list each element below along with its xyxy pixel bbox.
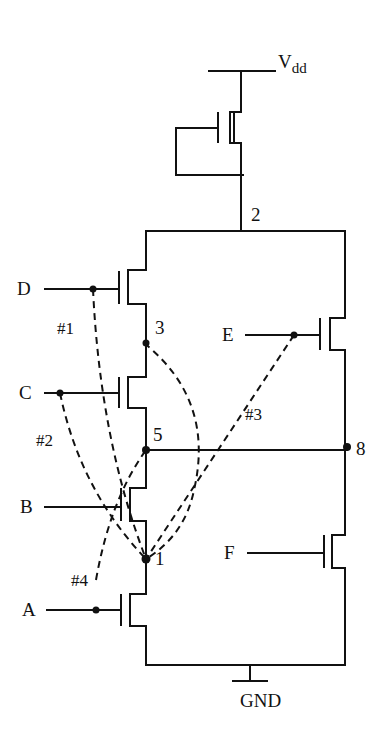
node-label-1: 1 [155, 548, 165, 569]
fault-label-4: #4 [71, 571, 89, 590]
dot-D [90, 286, 97, 293]
fault-label-2: #2 [36, 431, 53, 450]
fault-label-1: #1 [57, 319, 74, 338]
right-branch [246, 231, 345, 665]
dot-node-8 [343, 443, 351, 451]
node-label-3: 3 [155, 317, 165, 338]
pullup-transistor [176, 112, 243, 231]
input-label-A: A [22, 599, 36, 620]
fault-3-path [146, 335, 294, 559]
left-chain [45, 231, 146, 665]
input-label-D: D [17, 278, 31, 299]
node-label-5: 5 [153, 424, 163, 445]
input-label-E: E [222, 324, 234, 345]
dot-node-5 [142, 446, 150, 454]
dot-node-1 [142, 555, 151, 564]
fault-1-path [93, 289, 146, 559]
dot-node-3 [143, 340, 150, 347]
input-label-F: F [224, 542, 235, 563]
vdd-label: Vdd [278, 51, 307, 76]
dot-E [291, 332, 298, 339]
fault-label-3: #3 [245, 405, 262, 424]
input-label-B: B [20, 496, 33, 517]
node-label-2: 2 [251, 204, 261, 225]
circuit-diagram: Vdd 2 3 5 8 1 D C B A E F #1 #2 #3 #4 GN… [0, 0, 385, 744]
vdd-rail [209, 71, 275, 112]
node-label-8: 8 [356, 438, 366, 459]
fault-2-path [60, 393, 146, 559]
dot-A [93, 607, 100, 614]
dot-C [57, 390, 64, 397]
ground-rail [146, 665, 345, 681]
gnd-label: GND [240, 690, 281, 711]
input-label-C: C [19, 382, 32, 403]
